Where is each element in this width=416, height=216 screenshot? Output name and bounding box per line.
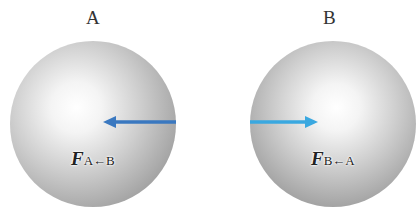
force-label-a: FA←B <box>71 148 115 170</box>
force-subscript-b: B←A <box>324 153 355 168</box>
force-arrow-b <box>250 116 318 128</box>
force-arrow-a <box>103 116 176 128</box>
force-symbol-b: F <box>311 148 324 169</box>
force-subscript-a: A←B <box>84 153 115 168</box>
force-label-b: FB←A <box>311 148 355 170</box>
force-symbol-a: F <box>71 148 84 169</box>
